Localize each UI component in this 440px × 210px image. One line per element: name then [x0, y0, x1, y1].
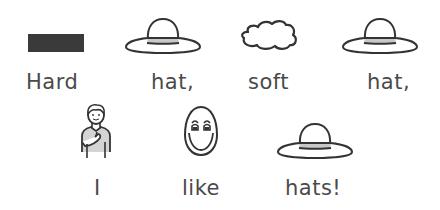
hat-icon: [340, 17, 420, 55]
hat-icon: [123, 17, 203, 55]
word-hat: hat,: [151, 72, 194, 93]
hat-icon: [275, 122, 355, 160]
word-like: like: [182, 178, 220, 199]
cloud-icon: [240, 18, 300, 52]
word-soft: soft: [248, 72, 289, 93]
word-hats: hats!: [285, 178, 341, 199]
word-hard: Hard: [26, 72, 78, 93]
smiling-face-icon: [182, 105, 220, 157]
word-hat: hat,: [367, 72, 410, 93]
dark-bar-icon: [28, 34, 84, 52]
person-pointing-self-icon: [77, 102, 115, 160]
word-i: I: [94, 178, 101, 199]
